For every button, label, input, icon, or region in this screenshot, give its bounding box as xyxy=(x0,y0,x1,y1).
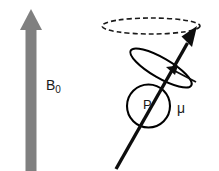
b0-field-symbol: B xyxy=(46,77,55,93)
B0-arrow-shaft xyxy=(26,27,37,171)
magnetic-moment-label: μ xyxy=(177,101,185,115)
physics-figure-canvas: B0 P μ xyxy=(0,0,219,171)
angular-momentum-label: P xyxy=(143,98,152,111)
figure-vector-graphics xyxy=(0,0,219,171)
b0-field-subscript: 0 xyxy=(55,84,61,95)
b0-field-label: B0 xyxy=(46,78,61,95)
